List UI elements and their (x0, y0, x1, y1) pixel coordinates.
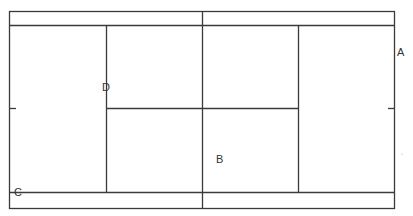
tennis-court-diagram (0, 0, 413, 216)
stray-dot (401, 153, 402, 154)
label-a: A (397, 47, 404, 58)
label-b: B (216, 154, 223, 165)
label-d: D (102, 82, 110, 93)
label-c: C (14, 187, 22, 198)
